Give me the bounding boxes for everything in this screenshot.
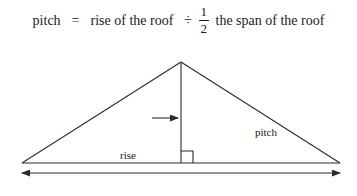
fraction-denominator: 2 bbox=[199, 22, 210, 36]
roof-triangle-diagram: rise pitch span bbox=[0, 38, 357, 196]
formula-term-rise-of-the-roof: rise of the roof bbox=[91, 14, 174, 28]
pitch-formula: pitch = rise of the roof ÷ 1 2 the span … bbox=[0, 6, 357, 36]
fraction-numerator: 1 bbox=[199, 5, 210, 19]
formula-equals-sign: = bbox=[72, 14, 80, 28]
roof-pitch-figure: pitch = rise of the roof ÷ 1 2 the span … bbox=[0, 0, 357, 196]
roof-slope-right bbox=[181, 62, 340, 163]
formula-term-pitch: pitch bbox=[33, 14, 61, 28]
roof-triangle-svg bbox=[0, 38, 357, 196]
formula-division-sign: ÷ bbox=[184, 14, 192, 28]
roof-slope-left bbox=[22, 62, 181, 163]
formula-fraction-one-half: 1 2 bbox=[199, 5, 210, 35]
pitch-label: pitch bbox=[255, 127, 277, 138]
right-angle-marker-icon bbox=[181, 151, 193, 163]
formula-term-the-span-of-the-roof: the span of the roof bbox=[216, 14, 325, 28]
rise-label: rise bbox=[120, 150, 136, 161]
